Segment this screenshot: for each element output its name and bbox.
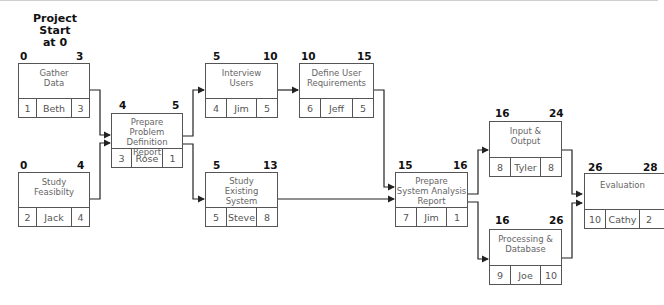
earliest-finish: 15: [357, 50, 372, 62]
earliest-finish: 5: [172, 99, 179, 111]
task-duration: 5: [353, 99, 373, 117]
arrow-6-to-7: [374, 90, 394, 187]
task-duration: 1: [447, 208, 467, 226]
task-title: Prepare System Analysis Report: [396, 176, 467, 206]
task-owner: Rose: [132, 149, 163, 167]
earliest-start: 0: [20, 159, 27, 171]
title-line: Processing &: [490, 234, 561, 244]
title-line: Prepare: [396, 176, 467, 186]
task-info-row: 7 Jim 1: [396, 207, 467, 226]
task-node-study-existing-system[interactable]: Study Existing System 5 Steve 8: [205, 172, 278, 227]
task-id: 8: [490, 158, 511, 176]
task-title: Gather Data: [19, 68, 89, 88]
task-duration: 4: [72, 208, 89, 226]
earliest-finish: 4: [77, 159, 84, 171]
task-info-row: 10 Cathy 2: [585, 209, 664, 228]
task-owner: Beth: [37, 99, 72, 117]
title-line: Define User: [300, 68, 373, 78]
title-line: Evaluation: [585, 180, 660, 190]
task-info-row: 8 Tyler 8: [490, 157, 561, 176]
earliest-start: 10: [301, 50, 316, 62]
arrow-2-to-3: [90, 143, 110, 199]
title-line: Existing: [206, 186, 277, 196]
earliest-start: 4: [119, 99, 126, 111]
task-owner: Tyler: [511, 158, 541, 176]
earliest-start: 5: [213, 50, 220, 62]
task-id: 10: [585, 210, 606, 228]
task-duration: 2: [640, 210, 658, 228]
task-node-evaluation[interactable]: Evaluation 10 Cathy 2: [584, 173, 664, 229]
earliest-start: 16: [495, 214, 510, 226]
arrow-7-to-9: [468, 202, 488, 259]
task-node-prepare-problem-definition-report[interactable]: Prepare Problem Definition Report 3 Rose…: [111, 113, 183, 168]
task-info-row: 5 Steve 8: [206, 207, 277, 226]
title-line: Feasibilty: [19, 187, 89, 197]
task-node-prepare-system-analysis-report[interactable]: Prepare System Analysis Report 7 Jim 1: [395, 172, 468, 227]
task-title: Input & Output: [490, 126, 561, 146]
earliest-start: 16: [495, 107, 510, 119]
earliest-finish: 3: [76, 50, 83, 62]
task-info-row: 4 Jim 5: [206, 98, 277, 117]
task-node-define-user-requirements[interactable]: Define User Requirements 6 Jeff 5: [299, 63, 374, 118]
task-title: Define User Requirements: [300, 68, 373, 88]
title-line: Data: [19, 78, 89, 88]
earliest-finish: 13: [263, 159, 278, 171]
earliest-finish: 28: [643, 161, 658, 173]
task-id: 5: [206, 208, 227, 226]
task-node-gather-data[interactable]: Gather Data 1 Beth 3: [18, 63, 90, 118]
arrow-9-to-10: [562, 203, 582, 258]
task-id: 9: [490, 266, 511, 284]
task-node-interview-users[interactable]: Interview Users 4 Jim 5: [205, 63, 278, 118]
task-duration: 3: [72, 99, 89, 117]
task-node-processing-database[interactable]: Processing & Database 9 Joe 10: [489, 229, 562, 285]
title-line: Database: [490, 244, 561, 254]
arrow-7-to-8: [468, 150, 488, 194]
task-owner: Joe: [511, 266, 541, 284]
arrow-3-to-4: [183, 90, 204, 136]
title-line: Study: [19, 177, 89, 187]
task-info-row: 3 Rose 1: [112, 148, 182, 167]
task-info-row: 1 Beth 3: [19, 98, 89, 117]
title-line: Prepare: [112, 117, 182, 127]
task-owner: Jim: [417, 208, 447, 226]
title-line: Input &: [490, 126, 561, 136]
task-info-row: 2 Jack 4: [19, 207, 89, 226]
task-duration: 1: [163, 149, 182, 167]
earliest-finish: 24: [549, 107, 564, 119]
task-title: Evaluation: [585, 180, 660, 190]
title-line: Gather: [19, 68, 89, 78]
task-title: Study Feasibilty: [19, 177, 89, 197]
task-id: 4: [206, 99, 227, 117]
title-line: Users: [206, 78, 277, 88]
title-line: Requirements: [300, 78, 373, 88]
task-id: 1: [19, 99, 37, 117]
task-info-row: 9 Joe 10: [490, 265, 561, 284]
arrow-8-to-10: [562, 150, 582, 194]
earliest-start: 26: [588, 161, 603, 173]
task-info-row: 6 Jeff 5: [300, 98, 373, 117]
task-duration: 10: [541, 266, 561, 284]
task-id: 3: [112, 149, 132, 167]
title-line: Study: [206, 176, 277, 186]
task-title: Processing & Database: [490, 234, 561, 254]
task-duration: 8: [257, 208, 277, 226]
task-title: Study Existing System: [206, 176, 277, 206]
task-node-study-feasibility[interactable]: Study Feasibilty 2 Jack 4: [18, 172, 90, 227]
task-node-input-output[interactable]: Input & Output 8 Tyler 8: [489, 121, 562, 177]
task-title: Interview Users: [206, 68, 277, 88]
task-duration: 8: [541, 158, 561, 176]
task-owner: Jim: [227, 99, 257, 117]
title-line: System: [206, 196, 277, 206]
arrow-3-to-5: [183, 144, 204, 199]
title-line: System Analysis: [396, 186, 467, 196]
title-line: Output: [490, 136, 561, 146]
task-id: 6: [300, 99, 321, 117]
earliest-start: 0: [20, 50, 27, 62]
earliest-finish: 16: [453, 159, 468, 171]
task-owner: Jeff: [321, 99, 353, 117]
earliest-finish: 26: [549, 214, 564, 226]
task-duration: 5: [257, 99, 277, 117]
title-line: Report: [396, 196, 467, 206]
task-owner: Jack: [37, 208, 72, 226]
earliest-finish: 10: [263, 50, 278, 62]
